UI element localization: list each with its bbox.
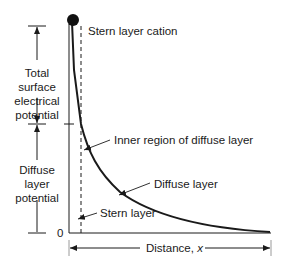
inner-region-label: Inner region of diffuse layer bbox=[114, 133, 253, 147]
distance-axis-label: Distance, x bbox=[144, 241, 205, 255]
diffuse-layer-label: Diffuse layer bbox=[154, 177, 218, 191]
stern-cation-label: Stern layer cation bbox=[88, 24, 178, 38]
diffuse-potential-label: Diffuse layer potential bbox=[2, 163, 72, 205]
origin-label: 0 bbox=[57, 226, 63, 240]
total-potential-line-1: Total bbox=[2, 66, 72, 80]
stern-layer-label: Stern layer bbox=[100, 206, 156, 220]
diffuse-potential-line-1: Diffuse bbox=[2, 163, 72, 177]
double-layer-diagram: Stern layer cation Total surface electri… bbox=[0, 0, 285, 270]
stern-cation-dot bbox=[67, 14, 79, 26]
diffuse-potential-line-2: layer bbox=[2, 177, 72, 191]
distance-variable: x bbox=[197, 242, 203, 254]
total-potential-line-2: surface bbox=[2, 80, 72, 94]
total-potential-label: Total surface electrical potential bbox=[2, 66, 72, 122]
distance-text: Distance, bbox=[146, 242, 197, 254]
diffuse-layer-leader bbox=[119, 183, 150, 195]
diffuse-potential-line-3: potential bbox=[2, 191, 72, 205]
total-potential-line-4: potential bbox=[2, 108, 72, 122]
potential-decay-curve bbox=[72, 22, 270, 232]
total-potential-line-3: electrical bbox=[2, 94, 72, 108]
